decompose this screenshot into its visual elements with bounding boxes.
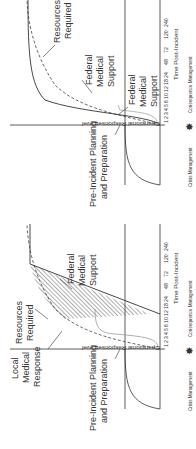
x-ticks: 1 2 3 4 5 6 10 12 18 24 48 72 120 240 [163,242,169,347]
label-resources-2: Required [63,2,73,39]
svg-text:24: 24 [163,296,169,302]
crisis-management-label: Crisis Management [188,371,193,411]
consequence-management-label: Consequence Management [188,56,193,113]
x-ticks: 1 2 3 4 5 6 10 12 18 24 48 72 120 240 [163,18,169,123]
label-local-2: Medical [21,352,31,383]
svg-text:18: 18 [163,303,169,309]
pre-incident-curve [125,125,160,185]
label-fed-upper-1: Federal [84,54,94,85]
chart-local-and-federal: Federal Medical Support Resources Requir… [0,224,196,449]
label-pre-2: and Preparation [99,135,109,199]
label-pre-1: Pre-Incident Planning [88,121,98,207]
svg-text:5: 5 [163,104,169,107]
svg-text:5: 5 [163,328,169,331]
x-axis-title: Time Post-Incident [172,28,179,80]
svg-text:6: 6 [163,324,169,327]
label-fed-lower-3: Support [149,75,159,107]
label-resources-1: Resources [52,0,62,43]
svg-text:120: 120 [163,254,169,263]
svg-text:48: 48 [163,283,169,289]
chart-federal-only: Resources Required Federal Medical Suppo… [0,0,196,225]
svg-text:1: 1 [163,120,169,123]
svg-text:18: 18 [163,79,169,85]
label-federal-2: Medical [77,255,87,286]
svg-text:10: 10 [163,93,169,99]
label-pre-1: Pre-Incident Planning [88,345,98,431]
consequence-management-label: Consequence Management [188,280,193,337]
x-axis-title: Time Post-Incident [172,252,179,304]
label-local-3: Response [32,346,42,387]
svg-text:3: 3 [163,336,169,339]
leader-resources [43,45,55,57]
label-fed-upper-2: Medical [95,56,105,87]
svg-text:6: 6 [163,100,169,103]
label-pre-2: and Preparation [99,359,109,423]
y-axis-title: Operational Response Level [82,345,160,352]
svg-text:48: 48 [163,59,169,65]
chart-federal-only-svg: Resources Required Federal Medical Suppo… [0,0,196,225]
svg-text:1: 1 [163,344,169,347]
label-fed-upper-3: Support [106,55,116,87]
svg-text:12: 12 [163,86,169,92]
chart-local-and-federal-svg: Federal Medical Support Resources Requir… [0,224,196,449]
svg-text:240: 240 [163,242,169,251]
leader-local [48,331,62,349]
y-axis-title: Operational Response Level [82,121,160,128]
svg-text:3: 3 [163,112,169,115]
burst-icon: ✸ [184,347,195,355]
svg-text:24: 24 [163,72,169,78]
label-resources-2: Required [25,304,35,341]
label-federal-1: Federal [66,253,76,284]
label-fed-lower-2: Medical [138,76,148,107]
burst-icon: ✸ [184,123,195,131]
label-local-1: Local [10,357,20,379]
svg-text:2: 2 [163,340,169,343]
svg-text:4: 4 [163,108,169,111]
leader-resources [35,309,48,319]
label-resources-1: Resources [14,300,24,344]
svg-text:4: 4 [163,332,169,335]
svg-text:72: 72 [163,47,169,53]
svg-text:2: 2 [163,116,169,119]
svg-text:10: 10 [163,317,169,323]
svg-text:240: 240 [163,18,169,27]
svg-text:120: 120 [163,30,169,39]
label-federal-3: Support [88,254,98,286]
svg-text:12: 12 [163,310,169,316]
label-fed-lower-1: Federal [127,74,137,105]
crisis-management-label: Crisis Management [188,147,193,187]
pre-incident-curve [125,349,160,409]
svg-text:72: 72 [163,271,169,277]
